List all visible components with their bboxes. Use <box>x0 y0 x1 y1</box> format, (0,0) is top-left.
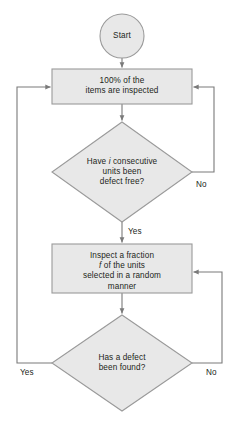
flowchart-shapes-layer <box>0 0 239 423</box>
node-box-inspect-all <box>52 69 192 104</box>
edge-diamond1-no-to-box1 <box>192 87 214 172</box>
edge-diamond2-no-to-box2 <box>192 272 222 363</box>
edge-label-diamond1-yes: Yes <box>128 227 142 237</box>
edge-label-diamond2-no: No <box>206 368 217 378</box>
edge-label-diamond2-yes: Yes <box>20 368 34 378</box>
flowchart-canvas: Start 100% of the items are inspected Ha… <box>0 0 239 423</box>
edge-label-diamond1-no: No <box>196 180 207 190</box>
edge-diamond2-yes-to-box1 <box>17 87 52 363</box>
node-box-inspect-fraction <box>52 244 192 293</box>
node-start <box>100 14 144 58</box>
node-decision-defect-found <box>52 315 192 411</box>
node-decision-consecutive-defect-free <box>52 122 192 222</box>
